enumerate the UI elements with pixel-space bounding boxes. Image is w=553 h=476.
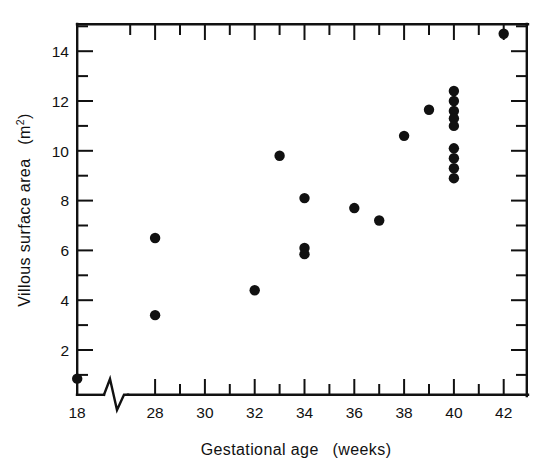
x-tick-label: 42 — [495, 404, 512, 421]
data-point — [499, 29, 509, 39]
y-axis-title-name: Villous surface area — [16, 159, 33, 307]
y-axis-ticks-major-right — [511, 51, 527, 350]
y-axis-title-unit-open: (m — [16, 125, 33, 144]
data-points-layer — [72, 29, 509, 384]
x-axis-title: Gestational age (weeks) — [201, 441, 392, 458]
x-tick-label: 36 — [346, 404, 363, 421]
y-tick-label: 14 — [52, 43, 70, 60]
y-axis-ticks-major-left — [77, 51, 93, 350]
x-axis-ticks-minor-bottom — [180, 384, 479, 395]
data-point — [250, 285, 260, 295]
y-axis-title-unit-close: ) — [16, 113, 33, 119]
data-point — [72, 373, 82, 383]
x-tick-label: 18 — [68, 404, 85, 421]
x-axis-title-name: Gestational age — [201, 441, 319, 458]
data-point — [449, 173, 459, 183]
data-point — [449, 96, 459, 106]
x-tick-label: 38 — [395, 404, 412, 421]
data-point — [150, 310, 160, 320]
data-point — [374, 215, 384, 225]
y-tick-label: 12 — [52, 93, 69, 110]
plot-canvas: 14 12 10 8 6 4 2 18 28 30 32 34 36 38 40… — [0, 0, 553, 476]
y-tick-label: 10 — [52, 143, 70, 160]
x-axis-break-zigzag — [104, 379, 128, 410]
data-point — [449, 121, 459, 131]
data-point — [299, 193, 309, 203]
data-point — [424, 105, 434, 115]
y-axis-tick-labels: 14 12 10 8 6 4 2 — [52, 43, 70, 359]
y-axis-title: Villous surface area (m2) — [14, 113, 33, 307]
data-point — [449, 153, 459, 163]
plot-frame — [77, 24, 528, 410]
data-point — [399, 131, 409, 141]
x-tick-label: 28 — [146, 404, 163, 421]
data-point — [274, 151, 284, 161]
y-tick-label: 8 — [60, 192, 69, 209]
data-point — [449, 143, 459, 153]
y-axis-title-group: Villous surface area (m2) — [14, 113, 33, 307]
y-tick-label: 2 — [60, 342, 69, 359]
data-point — [449, 86, 459, 96]
data-point — [150, 233, 160, 243]
data-point — [299, 249, 309, 259]
x-tick-label: 34 — [296, 404, 314, 421]
scatter-plot-figure: 14 12 10 8 6 4 2 18 28 30 32 34 36 38 40… — [0, 0, 553, 476]
x-tick-label: 30 — [196, 404, 214, 421]
x-tick-label: 40 — [445, 404, 463, 421]
y-tick-label: 6 — [60, 242, 69, 259]
x-axis-tick-labels: 18 28 30 32 34 36 38 40 42 — [68, 404, 512, 421]
data-point — [349, 203, 359, 213]
x-axis-title-units: (weeks) — [333, 441, 392, 458]
y-tick-label: 4 — [60, 292, 69, 309]
x-tick-label: 32 — [246, 404, 263, 421]
data-point — [449, 163, 459, 173]
